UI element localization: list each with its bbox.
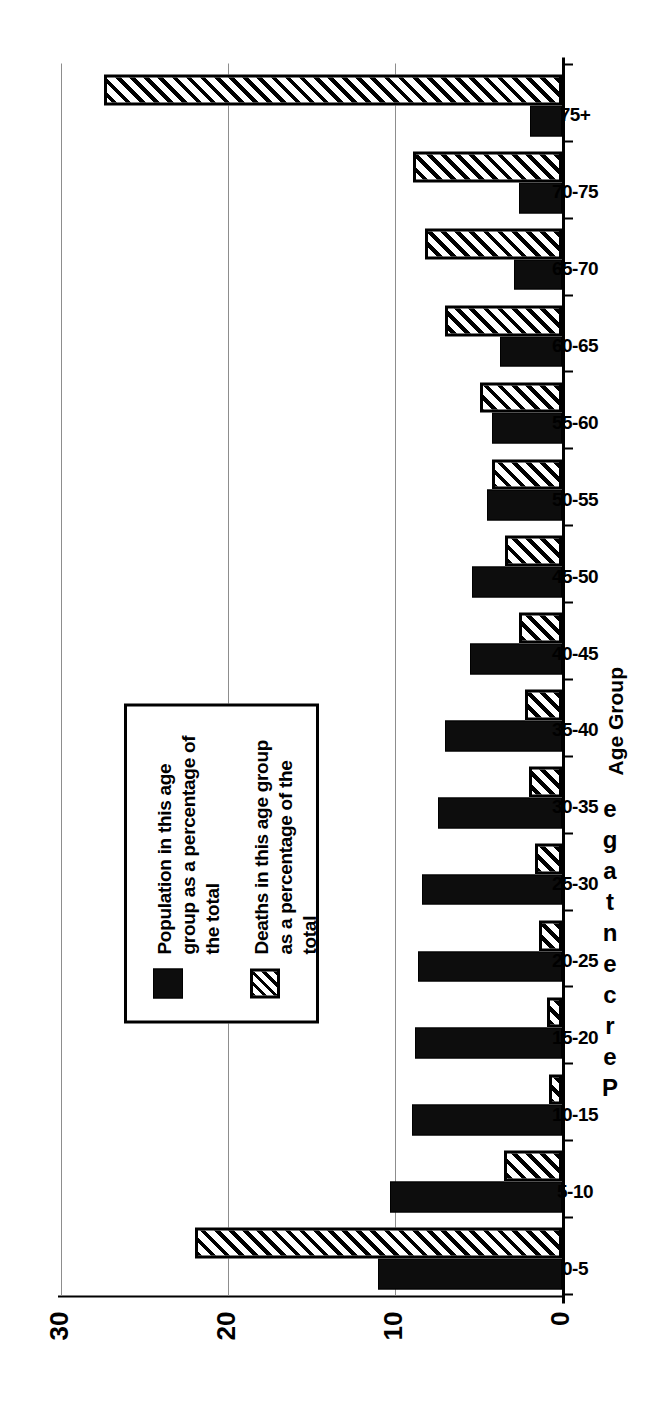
- bar-deaths: [445, 305, 562, 336]
- category-tick-label: 40-45: [552, 642, 598, 664]
- bar-group: [61, 449, 562, 526]
- category-tick: [562, 832, 573, 834]
- bar-deaths: [529, 766, 562, 797]
- bar-group: [61, 296, 562, 373]
- category-tick-label: 25-30: [552, 872, 598, 894]
- category-tick-label: 20-25: [552, 949, 598, 971]
- bar-deaths: [480, 382, 562, 413]
- bar-population: [415, 1027, 562, 1058]
- category-tick: [562, 447, 573, 449]
- category-tick-label: 45-50: [552, 565, 598, 587]
- category-tick-label: 75+: [560, 103, 591, 125]
- y-axis-title-letter: r: [595, 1012, 626, 1040]
- bar-deaths: [425, 228, 562, 259]
- value-tick-label-20: 20: [211, 1311, 242, 1403]
- category-tick-label: 35-40: [552, 718, 598, 740]
- y-axis-title-letter: e: [595, 1043, 626, 1071]
- bar-deaths: [525, 689, 562, 720]
- category-tick: [562, 986, 573, 988]
- category-tick: [562, 678, 573, 680]
- bar-population: [390, 1181, 562, 1212]
- y-axis-title-letter: e: [595, 950, 626, 978]
- bar-group: [61, 1064, 562, 1141]
- category-tick-label: 30-35: [552, 795, 598, 817]
- y-axis-title-letter: n: [595, 919, 626, 947]
- legend-entry-population: Population in this age group as a percen…: [153, 726, 224, 998]
- bar-deaths: [195, 1227, 562, 1258]
- legend-label-population: Population in this age group as a percen…: [153, 726, 224, 954]
- y-axis-title-letter: e: [595, 795, 626, 823]
- rotated-figure: 0102030 0-55-1010-1515-2020-2525-3030-35…: [0, 0, 668, 1403]
- bar-population: [422, 874, 562, 905]
- category-tick: [562, 755, 573, 757]
- legend-swatch-population-icon: [153, 968, 183, 998]
- legend-swatch-deaths-icon: [250, 968, 280, 998]
- x-axis-title: Age Group: [604, 667, 628, 776]
- y-axis-title-letter: P: [595, 1074, 626, 1102]
- category-tick: [562, 1062, 573, 1064]
- bar-deaths: [492, 459, 562, 490]
- category-tick-label: 10-15: [552, 1103, 598, 1125]
- legend-label-deaths: Deaths in this age group as a percentage…: [250, 726, 321, 954]
- bar-deaths: [505, 535, 562, 566]
- bar-group: [61, 526, 562, 603]
- category-tick-label: 60-65: [552, 334, 598, 356]
- category-tick: [562, 371, 573, 373]
- bar-population: [438, 797, 562, 828]
- category-tick-label: 0-5: [562, 1257, 588, 1279]
- bar-deaths: [519, 612, 562, 643]
- category-tick: [562, 140, 573, 142]
- bar-group: [61, 373, 562, 450]
- bar-population: [378, 1258, 562, 1289]
- y-axis-title: Percentage: [596, 793, 624, 1103]
- bar-deaths: [549, 1074, 562, 1105]
- category-tick-label: 65-70: [552, 257, 598, 279]
- category-tick: [562, 1216, 573, 1218]
- bar-population: [445, 720, 562, 751]
- bar-group: [61, 65, 562, 142]
- bar-group: [61, 219, 562, 296]
- category-tick: [562, 217, 573, 219]
- y-axis-title-letter: a: [595, 857, 626, 885]
- legend: Population in this age group as a percen…: [124, 703, 319, 1023]
- value-tick-label-10: 10: [378, 1311, 409, 1403]
- category-tick: [562, 1139, 573, 1141]
- category-tick-label: 55-60: [552, 411, 598, 433]
- bar-deaths: [504, 1150, 562, 1181]
- category-tick: [562, 294, 573, 296]
- category-tick-label: 70-75: [552, 180, 598, 202]
- bar-population: [470, 643, 562, 674]
- bar-group: [61, 603, 562, 680]
- bar-population: [487, 489, 562, 520]
- category-tick: [562, 909, 573, 911]
- bar-deaths: [547, 997, 562, 1028]
- category-tick: [562, 1293, 573, 1295]
- bar-deaths: [535, 843, 562, 874]
- bar-group: [61, 1218, 562, 1295]
- bar-deaths: [104, 74, 562, 105]
- y-axis-title-letter: c: [595, 981, 626, 1009]
- bar-group: [61, 142, 562, 219]
- category-tick: [562, 524, 573, 526]
- y-axis-title-letter: g: [595, 826, 626, 854]
- legend-entry-deaths: Deaths in this age group as a percentage…: [250, 726, 321, 998]
- bar-population: [472, 566, 562, 597]
- y-axis-title-letter: t: [595, 888, 626, 916]
- bar-deaths: [413, 151, 562, 182]
- category-tick-label: 15-20: [552, 1026, 598, 1048]
- bar-population: [412, 1104, 562, 1135]
- category-tick: [562, 63, 573, 65]
- category-tick-label: 50-55: [552, 488, 598, 510]
- value-tick-label-30: 30: [44, 1311, 75, 1403]
- bar-deaths: [539, 920, 562, 951]
- category-tick-label: 5-10: [557, 1180, 593, 1202]
- value-tick-label-0: 0: [545, 1311, 576, 1403]
- plot-area: [61, 65, 562, 1295]
- category-tick: [562, 601, 573, 603]
- bar-population: [530, 105, 562, 136]
- bar-group: [61, 1141, 562, 1218]
- bar-population: [418, 951, 562, 982]
